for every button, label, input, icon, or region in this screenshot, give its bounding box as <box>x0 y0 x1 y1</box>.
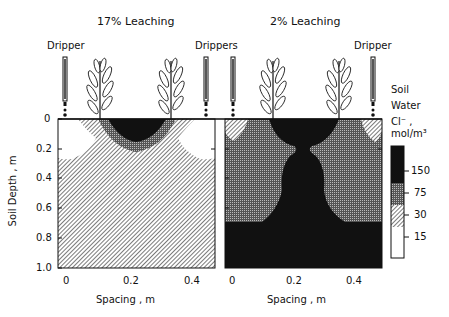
x-tick-right-0.2: 0.2 <box>286 276 302 286</box>
legend-tick-30: 30 <box>414 210 427 220</box>
left-panel-title: 17% Leaching <box>97 16 174 27</box>
y-tick-0.8: 0.8 <box>36 233 52 243</box>
dripper-label-left: Dripper <box>47 41 85 51</box>
x-tick-left-0.4: 0.4 <box>184 276 200 286</box>
legend-title-line2: Water <box>391 101 421 111</box>
y-tick-0.2: 0.2 <box>36 144 52 154</box>
legend-tick-150: 150 <box>411 166 430 176</box>
x-axis-label-left: Spacing , m <box>96 295 155 305</box>
dripper-label-right: Dripper <box>354 41 392 51</box>
y-tick-0.4: 0.4 <box>36 173 52 183</box>
y-tick-0: 0 <box>44 114 50 124</box>
y-axis-label: Soil Depth , m <box>8 156 18 227</box>
x-tick-left-0.2: 0.2 <box>123 276 139 286</box>
legend-title-line4: mol/m³ <box>391 129 427 139</box>
x-axis-label-right: Spacing , m <box>267 295 326 305</box>
left-contour-panel <box>58 119 215 268</box>
y-tick-0.6: 0.6 <box>36 203 52 213</box>
drippers-label-middle: Drippers <box>195 41 238 51</box>
plants-and-drippers <box>63 57 375 119</box>
x-tick-right-0.4: 0.4 <box>346 276 362 286</box>
y-tick-1.0: 1.0 <box>36 263 52 273</box>
legend-tick-15: 15 <box>414 232 427 242</box>
legend-tick-75: 75 <box>414 188 427 198</box>
legend-title-line1: Soil <box>391 85 409 95</box>
x-tick-right-0: 0 <box>229 276 235 286</box>
legend-title-line3: Cl⁻ , <box>391 117 412 127</box>
right-contour-panel <box>225 119 382 268</box>
legend-bar <box>391 146 409 258</box>
x-tick-left-0: 0 <box>63 276 69 286</box>
right-panel-title: 2% Leaching <box>270 16 340 27</box>
